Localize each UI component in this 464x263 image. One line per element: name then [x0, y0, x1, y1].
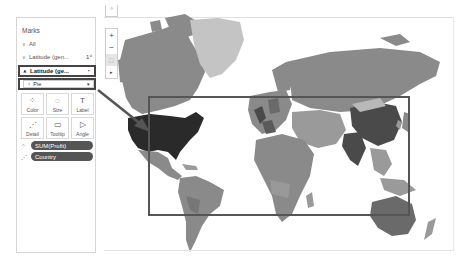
world-map[interactable]	[0, 0, 464, 263]
map-controls: + − ⬚ ▸	[105, 28, 118, 79]
zoom-in-button[interactable]: +	[106, 29, 117, 41]
selection-tool-button[interactable]: ⬚	[106, 54, 117, 66]
divider	[104, 250, 454, 251]
map-search-button[interactable]: ⌕	[105, 5, 118, 17]
zoom-out-button[interactable]: −	[106, 41, 117, 53]
expand-toolbar-button[interactable]: ▸	[106, 66, 117, 78]
